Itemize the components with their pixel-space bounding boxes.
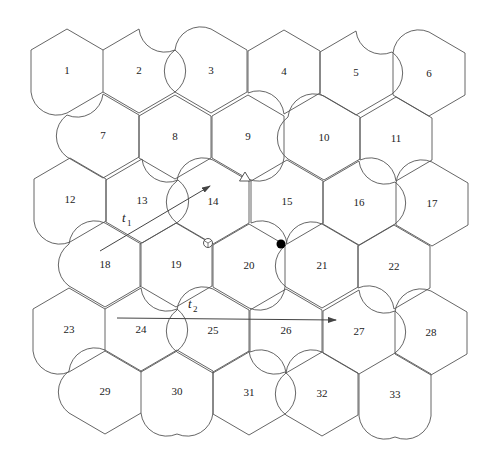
straight-edge	[251, 160, 287, 181]
straight-edge	[359, 353, 395, 374]
straight-edge	[33, 288, 69, 309]
tile-label-24: 24	[136, 323, 148, 335]
straight-edge	[395, 353, 431, 374]
straight-edge	[103, 94, 139, 115]
curved-edge	[395, 289, 431, 312]
vector-label-t2: t	[188, 296, 192, 311]
straight-edge	[177, 352, 213, 373]
tile-label-13: 13	[137, 194, 149, 206]
straight-edge	[67, 92, 103, 113]
curved-edge	[275, 373, 286, 415]
vector-subscript: 2	[193, 304, 198, 314]
tile-label-3: 3	[208, 64, 214, 76]
curved-edge	[249, 287, 285, 310]
straight-edge	[287, 160, 323, 181]
straight-edge	[213, 289, 249, 310]
tile-label-4: 4	[281, 65, 287, 77]
straight-edge	[360, 97, 396, 118]
tile-label-5: 5	[353, 66, 359, 78]
straight-edge	[429, 32, 465, 53]
curved-edge	[177, 413, 213, 436]
curved-edge	[360, 158, 396, 181]
curved-edge	[356, 31, 392, 54]
straight-edge	[356, 94, 392, 115]
curved-edge	[69, 348, 105, 371]
tile-label-10: 10	[319, 131, 331, 143]
straight-edge	[69, 413, 105, 434]
tile-label-9: 9	[245, 130, 251, 142]
straight-edge	[394, 288, 430, 309]
curved-edge	[285, 372, 296, 414]
straight-edge	[67, 29, 103, 50]
vector-arrow-t1	[100, 186, 210, 251]
tile-label-6: 6	[426, 67, 432, 79]
curved-edge	[392, 52, 403, 94]
straight-edge	[432, 225, 468, 246]
curved-edge	[177, 158, 213, 181]
tile-label-29: 29	[100, 385, 112, 397]
straight-edge	[432, 162, 468, 183]
curved-edge	[56, 115, 67, 157]
straight-edge	[286, 415, 322, 436]
curved-edge	[177, 309, 188, 351]
curved-edge	[33, 351, 69, 374]
straight-edge	[211, 29, 247, 50]
tile-label-18: 18	[100, 258, 112, 270]
straight-edge	[175, 92, 211, 113]
point-markers	[204, 172, 286, 249]
tile-label-28: 28	[426, 326, 438, 338]
curved-edge	[178, 180, 189, 222]
straight-edge	[105, 223, 141, 244]
straight-edge	[70, 158, 106, 179]
straight-edge	[288, 159, 324, 180]
tile-label-21: 21	[317, 259, 328, 271]
straight-edge	[140, 286, 176, 307]
curved-edge	[141, 413, 177, 436]
curved-edge	[359, 161, 395, 184]
straight-edge	[106, 159, 142, 180]
straight-edge	[103, 157, 139, 178]
straight-edge	[286, 287, 322, 308]
straight-edge	[175, 158, 211, 179]
curved-edge	[34, 221, 70, 244]
curved-edge	[139, 29, 175, 52]
tile-label-15: 15	[282, 195, 294, 207]
straight-edge	[177, 350, 213, 371]
curved-edge	[393, 30, 429, 53]
curved-edge	[166, 181, 177, 223]
straight-edge	[249, 414, 285, 435]
tile-label-2: 2	[136, 64, 142, 76]
straight-edge	[69, 286, 105, 307]
curved-edge	[58, 371, 69, 413]
straight-edge	[70, 221, 106, 242]
tile-label-20: 20	[244, 259, 256, 271]
filled-circle-marker-icon	[277, 240, 286, 249]
straight-edge	[248, 95, 284, 116]
vector-arrow-t2	[117, 318, 336, 320]
straight-edge	[67, 157, 103, 178]
straight-edge	[323, 161, 359, 182]
straight-edge	[431, 354, 467, 375]
tile-label-17: 17	[427, 197, 439, 209]
straight-edge	[69, 288, 105, 309]
curved-edge	[31, 92, 67, 115]
straight-edge	[175, 95, 211, 116]
curved-edge	[358, 286, 394, 309]
straight-edge	[140, 223, 176, 244]
tiling-figure: 1234567891011121314151617181920212223242…	[0, 0, 491, 463]
straight-edge	[31, 29, 67, 50]
curved-edge	[175, 50, 186, 92]
straight-edge	[394, 225, 430, 246]
straight-edge	[286, 352, 322, 373]
tile-label-8: 8	[172, 130, 178, 142]
straight-edge	[105, 286, 141, 307]
straight-edge	[139, 95, 175, 116]
straight-edge	[141, 351, 177, 372]
straight-edge	[320, 31, 356, 52]
curved-edge	[359, 416, 395, 439]
straight-edge	[212, 95, 248, 116]
straight-edge	[105, 288, 141, 309]
straight-edge	[322, 287, 358, 308]
curved-edge	[166, 310, 177, 352]
straight-edge	[69, 351, 105, 372]
